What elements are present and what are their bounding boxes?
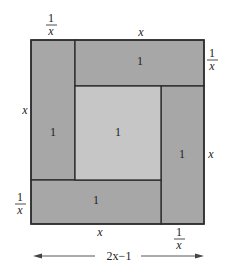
left-height-label: x (21, 103, 28, 117)
fraction-denominator: x (208, 59, 215, 73)
left-rect-area-label: 1 (50, 125, 56, 139)
fraction-numerator: 1 (17, 190, 23, 204)
left-bottom-height-fraction: 1 x (15, 190, 26, 217)
total-width-label: 2x−1 (107, 249, 132, 263)
fraction-denominator: x (47, 24, 54, 38)
square-dissection-diagram: 1 1 1 1 1 1 x x 1 x x x 1 x x 1 x 2x−1 (0, 0, 229, 272)
right-rect-area-label: 1 (179, 147, 185, 161)
bottom-rect-area-label: 1 (93, 193, 99, 207)
fraction-numerator: 1 (176, 225, 182, 239)
right-arrowhead-icon (195, 254, 204, 259)
bottom-right-width-fraction: 1 x (174, 225, 185, 252)
top-width-label: x (137, 25, 144, 39)
bottom-width-label: x (96, 225, 103, 239)
fraction-denominator: x (175, 238, 182, 252)
left-rect (31, 40, 75, 180)
fraction-denominator: x (16, 203, 23, 217)
fraction-numerator: 1 (209, 46, 215, 60)
left-arrowhead-icon (33, 254, 42, 259)
right-top-height-fraction: 1 x (207, 46, 218, 73)
center-square-area-label: 1 (115, 125, 121, 139)
right-height-label: x (207, 147, 214, 161)
top-left-width-fraction: 1 x (46, 11, 57, 38)
top-rect-area-label: 1 (137, 54, 143, 68)
fraction-numerator: 1 (48, 11, 54, 25)
